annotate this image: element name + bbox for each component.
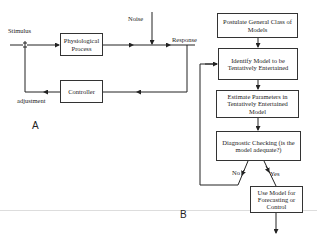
no-label: No [232, 169, 240, 176]
physiological-process-box: Physiological Process [60, 33, 103, 56]
physiological-process-text: Physiological Process [62, 37, 101, 51]
step-identify-text: Identify Model to be Tentatively Enterta… [220, 57, 296, 71]
response-label: Response [172, 36, 197, 43]
step-use-model-box: Use Model for Forecasting or Control [250, 186, 303, 213]
step-postulate-box: Postulate General Class of Models [217, 13, 298, 38]
step-diagnostic-text: Diagnostic Checking (is the model adequa… [218, 139, 299, 153]
panel-a-label: A [32, 120, 39, 131]
step-diagnostic-box: Diagnostic Checking (is the model adequa… [216, 131, 301, 161]
stimulus-label: Stimulus [8, 27, 31, 34]
controller-text: Controller [68, 88, 95, 95]
step-use-model-text: Use Model for Forecasting or Control [252, 189, 301, 211]
yes-label: Yes [270, 170, 279, 177]
panel-b-label: B [180, 209, 187, 220]
step-estimate-text: Estimate Parameters in Tentatively Enter… [218, 93, 297, 115]
step-identify-box: Identify Model to be Tentatively Enterta… [218, 48, 298, 80]
noise-label: Noise [128, 15, 143, 22]
adjustment-label: adjustment [17, 97, 46, 104]
controller-box: Controller [60, 80, 103, 103]
step-postulate-text: Postulate General Class of Models [219, 18, 296, 32]
step-estimate-box: Estimate Parameters in Tentatively Enter… [216, 90, 299, 118]
